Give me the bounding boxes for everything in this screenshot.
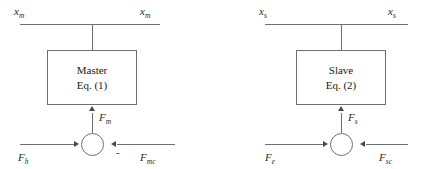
signal-base: F <box>379 151 386 163</box>
teleoperation-block-diagram: xm xm Master Eq. (1) Fm - Fh <box>0 0 426 169</box>
signal-subscript: m <box>106 117 111 126</box>
master-left-input-line <box>20 144 74 145</box>
slave-left-input-line <box>265 144 323 145</box>
slave-bottom-left-signal-label: Fe <box>265 152 275 163</box>
slave-block-to-top-line <box>341 24 342 50</box>
master-top-signal-line <box>20 24 160 25</box>
signal-subscript: s <box>393 11 396 20</box>
slave-junction-to-block-arrowhead <box>338 106 344 111</box>
signal-base: F <box>140 151 147 163</box>
slave-top-right-signal-label: xs <box>388 6 396 17</box>
master-bottom-left-signal-label: Fh <box>18 152 28 163</box>
master-junction-to-block-arrowhead <box>89 106 95 111</box>
slave-top-signal-line <box>265 24 408 25</box>
master-summing-junction <box>81 133 104 156</box>
master-bottom-right-signal-label: Fmc <box>140 152 155 163</box>
signal-subscript: s <box>355 117 358 126</box>
signal-subscript: m <box>19 11 24 20</box>
slave-left-input-arrowhead <box>323 141 328 147</box>
signal-subscript: sc <box>386 157 392 166</box>
signal-base: F <box>18 151 25 163</box>
slave-top-left-signal-label: xs <box>259 6 267 17</box>
signal-base: F <box>265 151 272 163</box>
signal-base: F <box>99 111 106 123</box>
master-junction-output-label: Fm <box>99 112 111 123</box>
signal-subscript: e <box>272 157 275 166</box>
slave-block: Slave Eq. (2) <box>296 50 386 105</box>
master-top-right-signal-label: xm <box>140 6 150 17</box>
signal-subscript: h <box>25 157 29 166</box>
slave-block-name: Slave <box>329 63 353 78</box>
slave-summing-junction <box>330 133 353 156</box>
slave-junction-output-label: Fs <box>348 112 358 123</box>
signal-subscript: mc <box>147 157 156 166</box>
slave-right-input-arrowhead <box>360 141 365 147</box>
master-block-to-top-line <box>92 24 93 50</box>
slave-block-equation: Eq. (2) <box>326 78 357 93</box>
master-left-input-arrowhead <box>74 141 79 147</box>
slave-right-input-line <box>366 144 408 145</box>
slave-subsystem-panel: xs xs Slave Eq. (2) Fs Fe Fsc <box>213 0 426 169</box>
master-block-equation: Eq. (1) <box>77 78 108 93</box>
signal-subscript: m <box>145 11 150 20</box>
master-subsystem-panel: xm xm Master Eq. (1) Fm - Fh <box>0 0 213 169</box>
slave-junction-to-block-line <box>341 113 342 133</box>
slave-bottom-right-signal-label: Fsc <box>379 152 392 163</box>
master-junction-negative-sign: - <box>116 147 120 158</box>
signal-base: F <box>348 111 355 123</box>
master-junction-to-block-line <box>92 113 93 133</box>
master-block-name: Master <box>77 63 108 78</box>
signal-subscript: s <box>264 11 267 20</box>
master-top-left-signal-label: xm <box>14 6 24 17</box>
master-block: Master Eq. (1) <box>47 50 137 105</box>
master-right-input-line <box>117 144 175 145</box>
